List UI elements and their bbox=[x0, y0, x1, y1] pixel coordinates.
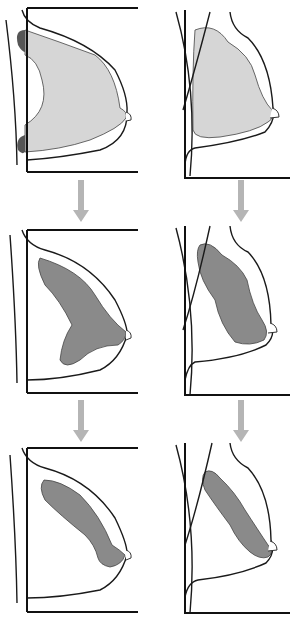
mlo-stage-2-tissue bbox=[197, 244, 266, 344]
nipple-icon-0 bbox=[126, 112, 131, 121]
mlo-arrow-2-down-arrow-icon bbox=[233, 400, 249, 442]
nipple-icon-2 bbox=[126, 330, 131, 340]
diagram-canvas bbox=[0, 0, 298, 628]
cc-stage-3-tissue bbox=[41, 480, 125, 567]
cc-stage-1-tissue bbox=[25, 30, 126, 152]
cc-stage-1-pectoral-accent-1 bbox=[17, 135, 25, 153]
mlo-stage-3-tissue bbox=[203, 471, 272, 558]
cc-stage-1-pectoral-accent-0 bbox=[17, 30, 25, 52]
nipple-icon-3 bbox=[268, 323, 277, 333]
nipple-icon-5 bbox=[268, 541, 277, 551]
cc-arrow-1-down-arrow-icon bbox=[73, 180, 89, 222]
cc-stage-3-chest-wall bbox=[10, 455, 17, 603]
mlo-arrow-1-down-arrow-icon bbox=[233, 180, 249, 222]
tissue-change-diagram bbox=[0, 0, 298, 628]
nipple-icon-4 bbox=[126, 550, 131, 560]
mlo-stage-1-tissue bbox=[193, 28, 273, 138]
cc-stage-2-tissue bbox=[38, 258, 126, 365]
cc-arrow-2-down-arrow-icon bbox=[73, 400, 89, 442]
cc-stage-1-chest-wall bbox=[6, 20, 17, 165]
cc-stage-2-chest-wall bbox=[10, 235, 17, 383]
